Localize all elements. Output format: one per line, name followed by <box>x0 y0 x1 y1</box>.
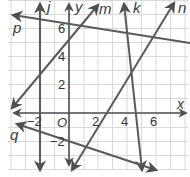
label-j: j <box>45 0 51 15</box>
label-m: m <box>99 0 112 17</box>
label-y: y <box>74 0 84 15</box>
origin-label: O <box>57 115 67 130</box>
line-q <box>17 124 156 170</box>
coordinate-plane: j k m n p q y x −2 2 4 6 6 4 2 −2 O <box>0 0 190 177</box>
label-x: x <box>176 96 185 112</box>
label-n: n <box>178 0 186 16</box>
tick-y-2: 2 <box>58 77 65 92</box>
label-p: p <box>12 19 21 36</box>
tick-y-neg2: −2 <box>50 134 65 149</box>
tick-y-6: 6 <box>58 21 65 36</box>
tick-x-2: 2 <box>92 114 99 129</box>
tick-y-4: 4 <box>58 49 65 64</box>
tick-x-4: 4 <box>121 114 128 129</box>
tick-x-6: 6 <box>150 114 157 129</box>
label-q: q <box>10 126 19 143</box>
label-k: k <box>133 0 142 16</box>
tick-x-neg2: −2 <box>27 114 42 129</box>
